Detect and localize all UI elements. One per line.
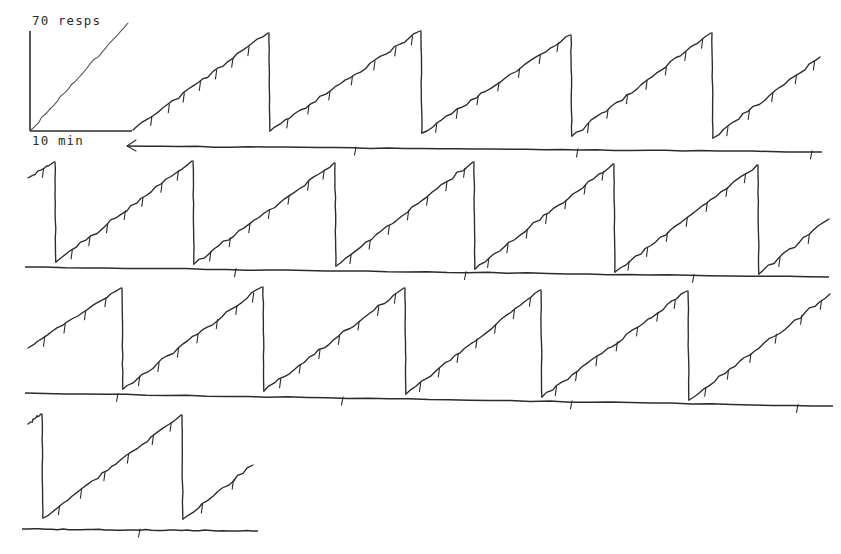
pen-reset-line [571,35,572,136]
reinforcement-pip [71,250,72,259]
reinforcement-pip [727,127,728,136]
reinforcement-pip [280,379,281,388]
reinforcement-pip [369,240,370,249]
response-ramp [422,35,570,133]
scale-reference-slope-line [31,23,128,130]
reinforcement-pip [104,472,105,481]
reinforcement-pip [197,334,198,343]
scale-vertical-label: 70 resps [32,13,101,28]
reinforcement-pip [168,104,169,113]
reinforcement-pip [813,61,814,70]
reinforcement-pip [779,258,780,267]
row-baseline [127,146,822,152]
response-ramp [475,164,613,269]
reinforcement-pip [446,182,447,191]
reinforcement-pip [546,214,547,223]
scale-legend: 70 resps10 min [30,13,132,148]
reinforcement-pip [808,234,809,243]
pen-reset-line [193,161,194,264]
reinforcement-pip [127,454,128,463]
reinforcement-pip [142,197,143,206]
reinforcement-pip [64,324,65,333]
response-ramp [183,465,253,519]
record-row [127,31,822,159]
reinforcement-pip [216,70,217,79]
pen-reset-line [405,288,406,394]
pen-reset-line [122,288,123,389]
reinforcement-pip [456,110,457,119]
cumulative-record-canvas: 70 resps10 min [0,0,841,554]
response-ramp [572,33,711,136]
response-ramp [406,290,540,394]
reinforcement-pip [152,436,153,445]
reinforcement-pip [158,363,159,372]
pen-reset-line [758,165,759,274]
reinforcement-pip [253,293,254,302]
reinforcement-pip [183,93,184,102]
pen-reset-line [263,287,264,391]
reinforcement-pip [248,47,249,56]
pen-reset-line [541,290,542,397]
response-ramp [689,294,830,400]
reinforcement-pip [507,244,508,253]
reinforcement-pip [674,300,675,309]
record-row [25,287,833,412]
cumulative-record-figure: 70 resps10 min [0,0,841,554]
response-ramp [194,163,334,264]
reinforcement-pip [420,383,421,392]
pen-reset-line [688,291,689,400]
reinforcement-pip [596,357,597,366]
response-ramp [615,165,757,272]
reinforcement-pip [80,489,81,498]
reinforcement-pip [287,119,288,128]
pen-reset-line [42,414,43,518]
pen-reset-line [614,164,615,272]
response-ramp [336,162,473,266]
response-ramp [28,162,54,178]
pen-reset-line [182,415,183,519]
pen-reset-line [269,33,270,131]
response-ramp [28,288,121,348]
pen-reset-line [335,163,336,266]
reinforcement-pip [702,39,703,48]
reinforcement-pip [395,47,396,56]
response-ramp [28,414,41,424]
reinforcement-pip [378,307,379,316]
reinforcement-pip [539,55,540,64]
pen-reset-line [421,31,422,133]
reinforcement-pip [374,61,375,70]
reinforcement-pip [555,386,556,395]
record-rows [22,31,833,537]
reinforcement-pip [394,294,395,303]
response-ramp [56,161,192,262]
response-ramp [270,31,420,131]
reinforcement-pip [588,124,589,133]
reinforcement-pip [89,237,90,246]
pen-reset-line [55,162,56,262]
scale-horizontal-label: 10 min [32,133,84,148]
row-baseline [25,393,833,406]
reinforcement-pip [319,350,320,359]
response-ramp [713,57,820,138]
reinforcement-pip [44,337,45,346]
response-ramp [759,219,829,274]
row-baseline [25,267,829,277]
pen-reset-line [474,162,475,269]
reinforcement-pip [626,95,627,104]
reinforcement-pip [646,80,647,89]
reinforcement-pip [199,82,200,91]
reinforcement-pip [411,36,412,45]
reinforcement-pip [388,225,389,234]
pen-reset-line [712,33,713,138]
response-ramp [123,287,262,389]
reinforcement-pip [513,310,514,319]
reinforcement-pip [647,247,648,256]
record-row [25,161,829,282]
reinforcement-pip [801,315,802,324]
response-ramp [43,415,181,518]
response-ramp [264,288,404,391]
response-ramp [542,291,687,397]
record-row [22,414,258,537]
